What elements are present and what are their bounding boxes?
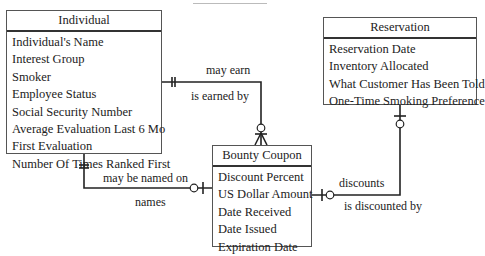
entity-reservation[interactable]: Reservation Reservation Date Inventory A… [323,17,477,105]
attribute: Date Received [218,204,311,221]
attribute: Inventory Allocated [329,58,476,75]
label-may-earn: may earn [206,63,250,78]
label-discounts: discounts [339,176,384,191]
rel-may-earn-line [161,77,267,145]
entity-title: Bounty Coupon [213,146,311,167]
attribute: Date Issued [218,221,311,238]
attribute: First Evaluation [12,138,161,155]
attribute: Reservation Date [329,41,476,58]
entity-title: Individual [7,11,161,32]
label-names: names [135,195,166,210]
attribute: Social Security Number [12,104,161,121]
attribute: Average Evaluation Last 6 Mo [12,121,161,138]
attribute: US Dollar Amount [218,186,311,203]
attribute: What Customer Has Been Told [329,76,476,93]
attribute: Discount Percent [218,169,311,186]
attribute: Individual's Name [12,34,161,51]
attribute: One-Time Smoking Preference [329,93,476,110]
attribute: Employee Status [12,86,161,103]
label-may-be-named-on: may be named on [103,171,188,186]
attribute: Expiration Date [218,239,311,256]
label-is-discounted-by: is discounted by [344,199,422,214]
attribute: Interest Group [12,51,161,68]
attribute: Smoker [12,69,161,86]
entity-individual[interactable]: Individual Individual's Name Interest Gr… [6,10,162,154]
entity-bounty-coupon[interactable]: Bounty Coupon Discount Percent US Dollar… [212,145,312,247]
label-is-earned-by: is earned by [191,89,249,104]
entity-title: Reservation [324,18,476,39]
